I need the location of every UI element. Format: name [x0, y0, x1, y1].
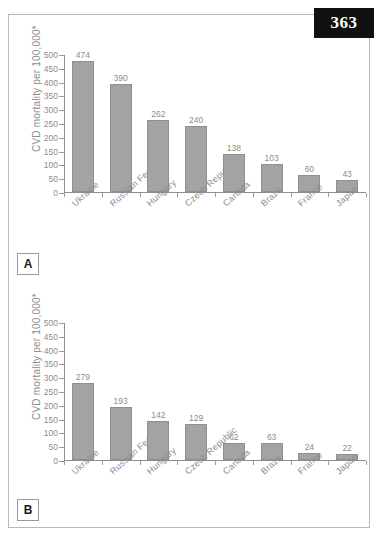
- x-tick-a-7: [328, 193, 329, 197]
- page-number-badge: 363: [314, 8, 374, 38]
- y-tick-a-450: [59, 69, 64, 70]
- x-tick-b-3: [177, 461, 178, 465]
- y-tick-label-a-0: 0: [18, 188, 58, 198]
- y-tick-b-250: [59, 392, 64, 393]
- x-tick-b-4: [215, 461, 216, 465]
- bar-value-label-a-1: 390: [101, 73, 141, 83]
- x-tick-b-0: [64, 461, 65, 465]
- y-tick-a-350: [59, 96, 64, 97]
- bar-value-label-a-0: 474: [63, 50, 103, 60]
- y-tick-a-400: [59, 83, 64, 84]
- panel-letter-a: A: [17, 253, 39, 275]
- y-tick-label-a-450: 450: [18, 64, 58, 74]
- y-tick-label-b-500: 500: [18, 318, 58, 328]
- bar-a-1: [110, 84, 132, 192]
- y-tick-b-100: [59, 433, 64, 434]
- y-tick-b-500: [59, 323, 64, 324]
- y-tick-label-a-350: 350: [18, 91, 58, 101]
- figure-panel-b: CVD mortality per 100,000* 0501001502002…: [9, 299, 371, 525]
- y-axis-line-a: [64, 55, 65, 193]
- x-tick-a-4: [215, 193, 216, 197]
- y-tick-b-150: [59, 420, 64, 421]
- figure-panel-a: CVD mortality per 100,000* 0501001502002…: [9, 31, 371, 279]
- y-tick-label-b-100: 100: [18, 428, 58, 438]
- plot-area-b: 050100150200250300350400450500279Ukraine…: [64, 323, 366, 461]
- y-tick-a-100: [59, 165, 64, 166]
- y-tick-a-250: [59, 124, 64, 125]
- y-tick-label-a-400: 400: [18, 78, 58, 88]
- x-tick-a-6: [291, 193, 292, 197]
- bar-value-label-b-3: 129: [176, 413, 216, 423]
- x-tick-b-7: [328, 461, 329, 465]
- y-tick-a-50: [59, 179, 64, 180]
- y-tick-b-50: [59, 447, 64, 448]
- y-tick-a-200: [59, 138, 64, 139]
- x-tick-a-3: [177, 193, 178, 197]
- x-tick-a-8: [366, 193, 367, 197]
- x-tick-b-5: [253, 461, 254, 465]
- y-tick-b-400: [59, 351, 64, 352]
- x-tick-b-1: [102, 461, 103, 465]
- y-axis-line-b: [64, 323, 65, 461]
- x-tick-b-6: [291, 461, 292, 465]
- panel-letter-b: B: [17, 499, 39, 521]
- y-tick-a-300: [59, 110, 64, 111]
- y-tick-label-a-500: 500: [18, 50, 58, 60]
- chart-b: CVD mortality per 100,000* 0501001502002…: [9, 299, 371, 525]
- y-tick-label-b-350: 350: [18, 359, 58, 369]
- y-tick-label-b-400: 400: [18, 346, 58, 356]
- y-tick-b-450: [59, 337, 64, 338]
- y-tick-label-a-50: 50: [18, 174, 58, 184]
- plot-area-a: 050100150200250300350400450500474Ukraine…: [64, 55, 366, 193]
- bar-value-label-a-2: 262: [138, 109, 178, 119]
- bar-value-label-b-1: 193: [101, 396, 141, 406]
- y-tick-label-b-150: 150: [18, 415, 58, 425]
- page-frame: CVD mortality per 100,000* 0501001502002…: [8, 14, 370, 528]
- bar-value-label-b-4: 62: [214, 432, 254, 442]
- chart-a: CVD mortality per 100,000* 0501001502002…: [9, 31, 371, 279]
- bar-value-label-a-4: 138: [214, 143, 254, 153]
- y-tick-label-b-50: 50: [18, 442, 58, 452]
- x-tick-b-2: [140, 461, 141, 465]
- bar-value-label-b-7: 22: [327, 443, 367, 453]
- bar-value-label-a-6: 60: [289, 164, 329, 174]
- x-tick-b-8: [366, 461, 367, 465]
- x-tick-a-5: [253, 193, 254, 197]
- y-tick-label-a-150: 150: [18, 147, 58, 157]
- bar-value-label-b-5: 63: [252, 432, 292, 442]
- bar-value-label-b-6: 24: [289, 442, 329, 452]
- bar-b-0: [72, 383, 94, 460]
- bar-a-0: [72, 61, 94, 192]
- x-tick-a-1: [102, 193, 103, 197]
- x-tick-a-2: [140, 193, 141, 197]
- y-tick-label-a-300: 300: [18, 105, 58, 115]
- y-tick-label-b-0: 0: [18, 456, 58, 466]
- y-tick-a-150: [59, 152, 64, 153]
- bar-value-label-b-2: 142: [138, 410, 178, 420]
- x-tick-a-0: [64, 193, 65, 197]
- y-tick-label-b-250: 250: [18, 387, 58, 397]
- y-tick-label-b-450: 450: [18, 332, 58, 342]
- y-tick-b-200: [59, 406, 64, 407]
- page-number-text: 363: [331, 13, 358, 33]
- bar-value-label-a-5: 103: [252, 153, 292, 163]
- bar-value-label-b-0: 279: [63, 372, 103, 382]
- y-tick-label-b-300: 300: [18, 373, 58, 383]
- bar-value-label-a-3: 240: [176, 115, 216, 125]
- y-tick-label-a-100: 100: [18, 160, 58, 170]
- y-tick-label-b-200: 200: [18, 401, 58, 411]
- y-tick-b-350: [59, 364, 64, 365]
- y-tick-label-a-250: 250: [18, 119, 58, 129]
- bar-value-label-a-7: 43: [327, 169, 367, 179]
- y-tick-label-a-200: 200: [18, 133, 58, 143]
